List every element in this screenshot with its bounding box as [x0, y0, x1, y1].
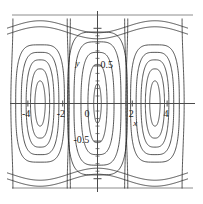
y-tick-label--0.5: -0.5 — [74, 135, 90, 145]
phase-portrait-canvas — [0, 0, 203, 204]
y-tick-label-0.5: 0.5 — [101, 60, 114, 70]
x-tick-label--4: -4 — [22, 109, 30, 119]
phase-portrait-figure: -4-2240.50-0.5yx — [0, 0, 203, 204]
x-tick-label-4: 4 — [164, 109, 169, 119]
y-axis-label: y — [76, 59, 80, 68]
y-tick-label-0: 0 — [85, 109, 90, 119]
x-tick-label--2: -2 — [57, 109, 65, 119]
x-tick-label-2: 2 — [129, 109, 134, 119]
x-axis-label: x — [133, 119, 137, 128]
